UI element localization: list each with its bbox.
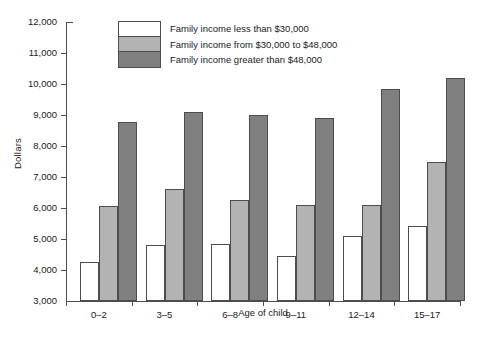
bar <box>381 89 400 301</box>
y-axis-tick-mark <box>61 239 67 240</box>
bar <box>80 262 99 301</box>
y-axis-tick-label: 3,000 <box>33 295 57 306</box>
y-axis-tick-mark <box>61 270 67 271</box>
bar <box>315 118 334 301</box>
bar <box>249 115 268 301</box>
legend-label: Family income from $30,000 to $48,000 <box>170 39 337 50</box>
y-axis-tick-mark <box>61 53 67 54</box>
bar-chart: Dollars 12,00011,00010,0009,0008,0007,00… <box>0 0 483 349</box>
y-axis-tick-label: 10,000 <box>28 78 57 89</box>
x-axis-tick-mark <box>394 301 395 306</box>
y-axis-tick-mark <box>61 84 67 85</box>
y-axis-tick-mark <box>67 301 73 302</box>
y-axis-tick-label: 8,000 <box>33 140 57 151</box>
bar <box>230 200 249 301</box>
legend-item: Family income greater than $48,000 <box>118 52 337 68</box>
legend-swatch <box>118 52 161 68</box>
bar <box>99 206 118 301</box>
bar <box>211 244 230 301</box>
bar <box>427 162 446 301</box>
x-axis-tick-mark <box>66 301 67 306</box>
legend-swatch <box>118 37 161 53</box>
y-axis-tick-mark <box>61 208 67 209</box>
y-axis-tick-label: 7,000 <box>33 171 57 182</box>
bar <box>146 245 165 301</box>
y-axis-title: Dollars <box>12 124 23 184</box>
y-axis-tick-label: 4,000 <box>33 264 57 275</box>
legend-item: Family income less than $30,000 <box>118 21 337 37</box>
bar <box>118 122 137 301</box>
chart-legend: Family income less than $30,000Family in… <box>118 21 337 68</box>
x-axis-tick-mark <box>197 301 198 306</box>
x-axis-tick-mark <box>329 301 330 306</box>
x-axis-tick-mark <box>132 301 133 306</box>
bar <box>362 205 381 301</box>
bar-group <box>343 22 400 301</box>
bar <box>408 226 427 301</box>
y-axis-line <box>66 22 67 301</box>
bar <box>343 236 362 301</box>
bar <box>184 112 203 301</box>
legend-label: Family income greater than $48,000 <box>170 54 322 65</box>
y-axis-tick-label: 5,000 <box>33 233 57 244</box>
y-axis-tick-label: 6,000 <box>33 202 57 213</box>
bar <box>296 205 315 301</box>
x-axis-tick-mark <box>460 301 461 306</box>
y-axis-tick-label: 12,000 <box>28 16 57 27</box>
x-axis-tick-mark <box>263 301 264 306</box>
bar <box>165 189 184 301</box>
legend-swatch <box>118 21 161 37</box>
y-axis-tick-label: 11,000 <box>29 47 57 58</box>
y-axis-tick-mark <box>61 115 67 116</box>
y-axis-tick-label: 9,000 <box>33 109 57 120</box>
x-axis-title: Age of child <box>66 307 460 318</box>
y-axis-tick-mark <box>61 146 67 147</box>
legend-label: Family income less than $30,000 <box>170 23 309 34</box>
bar <box>277 256 296 301</box>
bar <box>446 78 465 301</box>
y-axis-tick-mark <box>61 177 67 178</box>
bar-group <box>408 22 465 301</box>
legend-item: Family income from $30,000 to $48,000 <box>118 37 337 53</box>
y-axis-tick-mark <box>67 22 73 23</box>
